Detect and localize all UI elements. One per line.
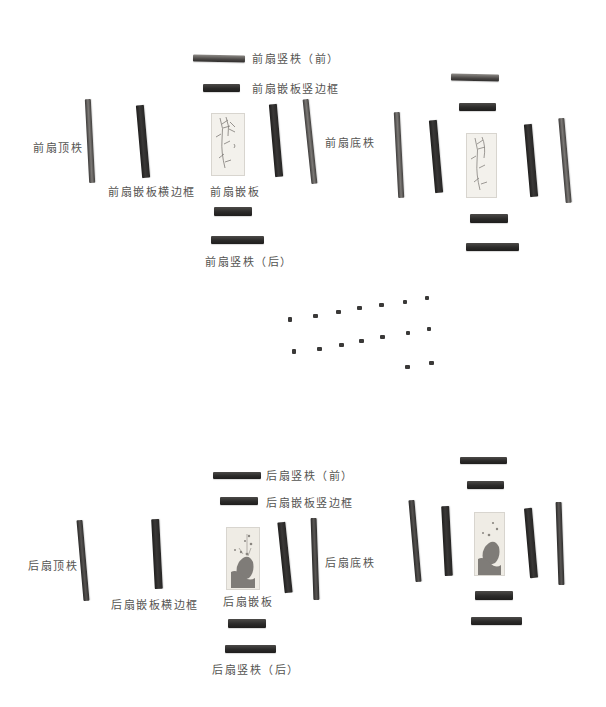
- back-leaf-stile-1: [408, 500, 421, 582]
- back-leaf-rail-3: [475, 591, 513, 600]
- back-leaf-rail-4: [471, 617, 522, 625]
- back-panel-vertical-frame-lower-part: [228, 619, 266, 628]
- peg: [405, 365, 410, 369]
- back-panel-vertical-frame-part: [220, 497, 258, 505]
- peg: [336, 310, 341, 314]
- back-panel-horizontal-frame-label: 后扇嵌板横边框: [111, 596, 199, 612]
- front-panel-vertical-frame-lower-part: [214, 207, 252, 216]
- front-panel-horizontal-frame-right-part: [269, 104, 283, 177]
- back-panel-label: 后扇嵌板: [223, 593, 273, 609]
- front-leaf-rail-4: [466, 243, 519, 251]
- back-bottom-rail-part: [311, 518, 320, 600]
- back-leaf-stile-3: [524, 508, 538, 578]
- peg: [313, 314, 318, 318]
- front-panel-horizontal-frame-label: 前扇嵌板横边框: [108, 183, 196, 199]
- back-leaf-stile-2: [441, 506, 453, 576]
- front-top-rail-label: 前扇顶柣: [33, 139, 83, 155]
- front-panel-part: [211, 113, 245, 176]
- front-vertical-rail-back-part: [211, 236, 264, 244]
- peg: [425, 296, 429, 300]
- front-leaf-panel: [466, 133, 497, 198]
- back-panel-horizontal-frame-right-part: [277, 522, 292, 593]
- peg: [317, 347, 322, 351]
- back-panel-part: [226, 527, 260, 590]
- front-vertical-rail-back-label: 前扇竖柣（后）: [205, 253, 293, 269]
- front-leaf-rail-1: [451, 74, 499, 82]
- peg: [429, 361, 434, 365]
- front-vertical-rail-front-part: [193, 55, 245, 63]
- landscape-painting-icon: [475, 513, 504, 575]
- back-leaf-rail-1: [460, 457, 507, 464]
- back-vertical-rail-back-label: 后扇竖柣（后）: [212, 661, 300, 677]
- back-panel-horizontal-frame-left-part: [151, 519, 163, 589]
- peg: [403, 300, 407, 304]
- peg: [292, 349, 296, 354]
- back-top-rail-label: 后扇顶柣: [28, 557, 78, 573]
- peg: [406, 331, 410, 335]
- peg: [288, 317, 292, 322]
- back-leaf-panel: [474, 512, 505, 576]
- front-bottom-rail-label: 前扇底柣: [325, 134, 375, 150]
- front-leaf-rail-3: [470, 214, 508, 223]
- back-bottom-rail-label: 后扇底柣: [325, 554, 375, 570]
- peg: [357, 306, 362, 310]
- back-leaf-stile-4: [556, 502, 565, 585]
- front-leaf-stile-4: [558, 118, 571, 203]
- front-leaf-stile-3: [524, 124, 538, 197]
- front-top-rail-part: [85, 99, 95, 183]
- front-panel-vertical-frame-part: [203, 84, 240, 92]
- peg: [379, 303, 384, 307]
- back-leaf-rail-2: [467, 481, 504, 489]
- exploded-diagram: 前扇竖柣（前） 前扇嵌板竖边框 前扇顶柣 前扇嵌板横边框 前扇嵌板 前扇底柣 前…: [0, 0, 606, 707]
- back-vertical-rail-front-part: [213, 472, 261, 479]
- back-vertical-rail-front-label: 后扇竖柣（前）: [266, 467, 354, 483]
- front-leaf-rail-2: [459, 103, 496, 111]
- front-leaf-stile-2: [429, 120, 443, 193]
- bamboo-painting-icon: [212, 114, 244, 175]
- front-panel-vertical-frame-label: 前扇嵌板竖边框: [252, 80, 340, 96]
- peg: [339, 343, 344, 347]
- back-vertical-rail-back-part: [225, 645, 276, 653]
- front-leaf-stile-1: [394, 112, 404, 198]
- peg: [427, 327, 431, 331]
- landscape-painting-icon: [227, 528, 259, 589]
- bamboo-painting-icon: [467, 134, 496, 197]
- front-vertical-rail-front-label: 前扇竖柣（前）: [252, 50, 340, 66]
- front-bottom-rail-part: [303, 99, 318, 184]
- front-panel-label: 前扇嵌板: [210, 183, 260, 199]
- peg: [359, 339, 364, 343]
- front-panel-horizontal-frame-left-part: [136, 105, 150, 178]
- peg: [380, 335, 385, 339]
- back-panel-vertical-frame-label: 后扇嵌板竖边框: [266, 494, 354, 510]
- back-top-rail-part: [76, 520, 89, 601]
